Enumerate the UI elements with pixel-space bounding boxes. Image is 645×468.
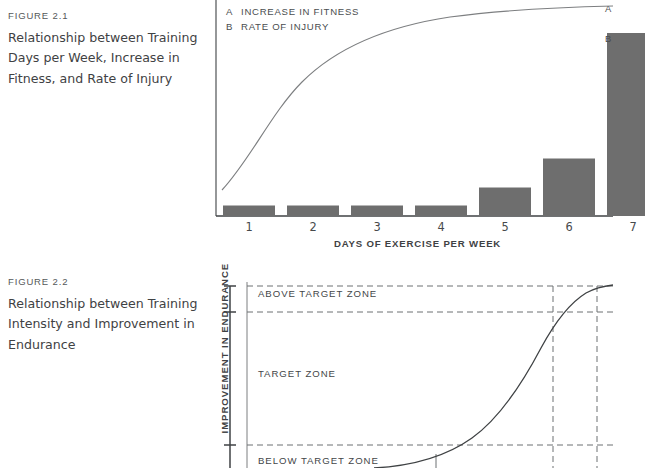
bar-day-5 (479, 188, 531, 217)
legend-label-a: INCREASE IN FITNESS (241, 6, 359, 17)
figure-title-1: Relationship between Training Days per W… (8, 28, 198, 89)
figure-caption-1: FIGURE 2.1 Relationship between Training… (8, 10, 198, 89)
bar-chart-training-days: A INCREASE IN FITNESS B RATE OF INJURY A… (210, 0, 613, 252)
figure-number-1: FIGURE 2.1 (8, 10, 198, 21)
zone-label-above-target: ABOVE TARGET ZONE (258, 288, 377, 299)
x-axis-title-1: DAYS OF EXERCISE PER WEEK (216, 238, 619, 249)
chart-legend-1: A INCREASE IN FITNESS B RATE OF INJURY (226, 6, 359, 36)
figure-number-2: FIGURE 2.2 (8, 276, 198, 287)
figure-title-2: Relationship between Training Intensity … (8, 294, 198, 355)
legend-key-b: B (226, 21, 241, 32)
bar-day-1 (223, 206, 275, 217)
bar-day-7 (607, 33, 645, 216)
bar-day-3 (351, 206, 403, 217)
line-chart-training-intensity: IMPROVEMENT IN ENDURANCE ABOVE TARGET ZO… (196, 276, 613, 468)
series-end-label-b: B (605, 33, 612, 44)
x-tick-label-3: 3 (365, 220, 389, 234)
figure-caption-2: FIGURE 2.2 Relationship between Training… (8, 276, 198, 355)
legend-key-a: A (226, 6, 241, 17)
x-tick-label-6: 6 (557, 220, 581, 234)
legend-item-a: A INCREASE IN FITNESS (226, 6, 359, 17)
x-tick-label-5: 5 (493, 220, 517, 234)
x-tick-label-2: 2 (301, 220, 325, 234)
legend-item-b: B RATE OF INJURY (226, 21, 359, 32)
zone-label-below-target: BELOW TARGET ZONE (258, 455, 379, 466)
x-tick-label-1: 1 (237, 220, 261, 234)
bar-day-2 (287, 206, 339, 217)
bar-day-6 (543, 159, 595, 217)
legend-label-b: RATE OF INJURY (241, 21, 329, 32)
bar-series-rate-of-injury (223, 33, 645, 216)
x-tick-label-7: 7 (621, 220, 645, 234)
x-tick-label-4: 4 (429, 220, 453, 234)
y-axis-title-2: IMPROVEMENT IN ENDURANCE (219, 274, 230, 434)
series-end-label-a: A (605, 3, 612, 14)
zone-label-target: TARGET ZONE (258, 368, 336, 379)
bar-day-4 (415, 206, 467, 217)
